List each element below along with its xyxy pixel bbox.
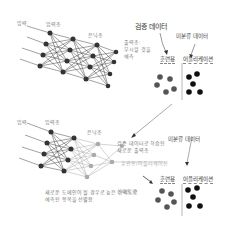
top-training-dots (154, 74, 177, 95)
new-output-sub: 훈련용/어플리케이션 (121, 160, 168, 166)
bottom-application-header: 어플리케이션 (183, 176, 213, 184)
top-hidden-layer-label: 은닉층 (88, 32, 103, 38)
top-input-layer-label: 입력층 (46, 21, 61, 27)
top-application-dots (186, 71, 203, 95)
validation-data-label: 검증 데이터 (135, 23, 167, 31)
bottom-input-label: 입력 (17, 119, 27, 125)
bottom-training-header: 훈련용 (160, 176, 175, 184)
top-output-note-3: 예측 (124, 53, 134, 59)
new-output-note-2: 새로운 출력층 (117, 147, 149, 153)
bottom-hidden-layer-label: 은닉층 (87, 129, 102, 135)
top-network (20, 26, 118, 86)
bottom-application-dots (185, 185, 203, 209)
unclassified-data-label-bottom: 미분류 데이터 (168, 136, 200, 142)
new-output-note-1: 검증 데이터로 학습된 (117, 140, 165, 146)
top-input-label: 입력 (17, 20, 27, 26)
bottom-note-2: 예측된 항목을 선별함 (45, 196, 93, 202)
top-output-note-1: 출력층: (124, 39, 141, 45)
bottom-network (19, 123, 74, 171)
bottom-training-dots (155, 188, 177, 210)
top-output-note-2: 무시할 것을 (124, 46, 151, 52)
top-training-header: 훈련용 (160, 56, 175, 64)
unclassified-data-label-top: 미분류 데이터 (176, 33, 208, 39)
bottom-input-layer-label: 입력층 (45, 119, 60, 125)
bottom-note-1: 새로운 도메인이 될 경우로 높은 신뢰도로 (45, 189, 138, 195)
top-application-header: 어플리케이션 (183, 56, 213, 64)
